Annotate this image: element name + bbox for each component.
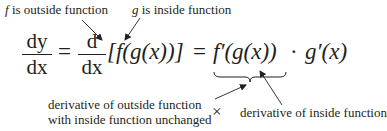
arrow-inside-function: [125, 18, 140, 40]
arrow-outside-function: [82, 20, 102, 40]
underbrace: [214, 72, 286, 82]
arrow-inner-derivative: [260, 71, 282, 105]
arrow-outer-derivative: [215, 85, 246, 99]
